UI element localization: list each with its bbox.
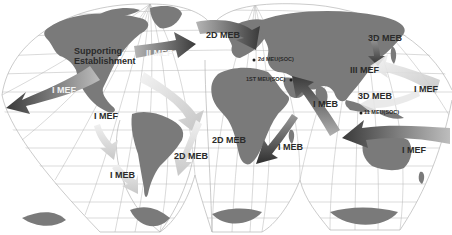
label-3d-meb-south: 3D MEB [358, 92, 392, 101]
label-1st-meu-soc: 1ST MEU(SOC) [246, 77, 285, 83]
label-i-mef-pacific-south: I MEF [402, 146, 426, 155]
label-i-mef-south-atlantic: I MEF [94, 112, 118, 121]
label-i-meb-south-america: I MEB [110, 171, 135, 180]
label-supporting-establishment: Supporting Establishment [74, 47, 136, 67]
label-2d-meb-south-1: 2D MEB [174, 152, 208, 161]
dot-1st-meu [290, 79, 293, 82]
label-2d-meb-north: 2D MEB [206, 31, 240, 40]
label-establishment-line2: Establishment [74, 57, 136, 67]
label-iii-mef: III MEF [350, 66, 379, 75]
label-i-meb-indian: I MEB [313, 100, 338, 109]
label-11-meu-soc: 11 MEU(SOC) [364, 110, 399, 116]
label-2d-meb-south-2: 2D MEB [212, 136, 246, 145]
antarctica [22, 212, 66, 226]
label-i-mef-west: I MEF [52, 86, 76, 95]
dot-2d-meu [253, 59, 256, 62]
label-i-mef-pacific-north: I MEF [414, 85, 438, 94]
world-deployment-map: Supporting Establishment II MEF I MEF I … [0, 0, 452, 235]
label-3d-meb-north: 3D MEB [368, 34, 402, 43]
greenland [150, 6, 182, 28]
label-ii-mef: II MEF [146, 49, 173, 58]
dot-11-meu [360, 112, 363, 115]
label-i-meb-africa: I MEB [278, 143, 303, 152]
label-2d-meu-soc: 2d MEU(SOC) [258, 57, 294, 63]
